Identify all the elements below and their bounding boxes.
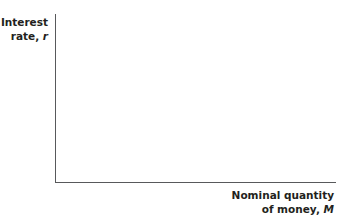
x-axis-label-text: of money, bbox=[262, 203, 324, 215]
x-axis-variable: M bbox=[324, 203, 334, 215]
y-axis-variable: r bbox=[43, 30, 48, 42]
x-axis-label-line2: of money, M bbox=[232, 202, 334, 216]
y-axis-label-text: rate, bbox=[11, 30, 43, 42]
x-axis-label: Nominal quantity of money, M bbox=[232, 188, 334, 216]
x-axis-label-line1: Nominal quantity bbox=[232, 188, 334, 202]
x-axis bbox=[55, 182, 336, 183]
y-axis bbox=[55, 14, 56, 183]
y-axis-label: Interest rate, r bbox=[1, 15, 48, 43]
y-axis-label-line2: rate, r bbox=[1, 29, 48, 43]
y-axis-label-line1: Interest bbox=[1, 15, 48, 29]
